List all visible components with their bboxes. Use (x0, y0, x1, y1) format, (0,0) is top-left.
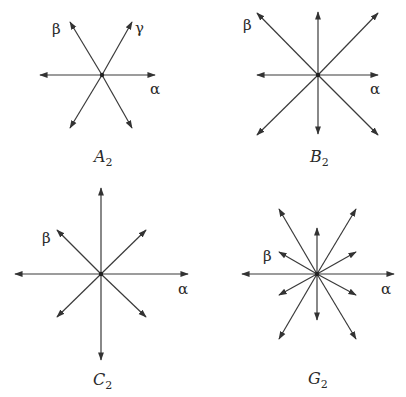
root-vector-arrow (101, 274, 146, 317)
root-vector-arrow (279, 252, 317, 274)
root-vector-arrow (70, 75, 102, 128)
root-vector-arrow (317, 252, 356, 274)
root-label: α (370, 80, 380, 98)
root-label: β (52, 20, 61, 38)
origin-dot (316, 73, 320, 77)
diagram-caption: A2 (92, 147, 113, 169)
root-label: β (243, 16, 252, 34)
panel-b2: βαB2 (243, 12, 380, 169)
root-vector-arrow (57, 230, 101, 274)
root-label: γ (135, 19, 144, 37)
panel-c2: βαC2 (15, 188, 188, 392)
root-label: α (381, 280, 391, 298)
panel-a2: βγαA2 (40, 19, 160, 169)
root-label: α (150, 80, 160, 98)
diagram-caption: B2 (309, 147, 329, 169)
root-vector-arrow (102, 75, 132, 128)
root-label: α (178, 280, 188, 298)
root-vector-arrow (257, 13, 318, 75)
origin-dot (100, 73, 104, 77)
root-vector-arrow (318, 75, 378, 135)
root-vector-arrow (257, 75, 318, 135)
root-systems-figure: βγαA2 βαB2 βαC2 βαG2 (0, 0, 406, 397)
root-vector-arrow (317, 209, 356, 274)
root-vector-arrow (101, 230, 146, 274)
root-vector-arrow (70, 22, 102, 75)
panel-g2: βαG2 (242, 209, 394, 391)
root-vector-arrow (279, 274, 317, 339)
origin-dot (99, 272, 103, 276)
root-label: β (263, 247, 272, 265)
origin-dot (315, 272, 319, 276)
root-vector-arrow (279, 209, 317, 274)
root-vector-arrow (102, 22, 132, 75)
root-label: β (42, 229, 51, 247)
root-vector-arrow (318, 13, 378, 75)
root-vector-arrow (57, 274, 101, 317)
diagram-caption: C2 (93, 370, 112, 392)
diagram-caption: G2 (308, 369, 328, 391)
root-vector-arrow (317, 274, 356, 339)
